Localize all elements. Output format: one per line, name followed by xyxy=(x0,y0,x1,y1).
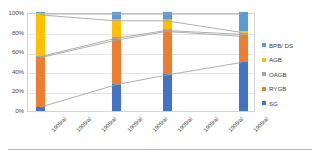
x-tick-label: 1905ral xyxy=(177,116,194,133)
legend-item[interactable]: BPB/ DS xyxy=(262,40,293,50)
legend-label: OAGB xyxy=(269,71,287,78)
y-tick-label: 100% xyxy=(9,9,24,17)
x-tick-label: 1905ral xyxy=(126,116,143,133)
x-tick-label: 1905ral xyxy=(253,116,270,133)
trend-line xyxy=(41,31,242,57)
legend-swatch-icon xyxy=(262,58,266,62)
legend-item[interactable]: AGB xyxy=(262,55,282,65)
bar-segment[interactable] xyxy=(36,12,45,13)
y-tick-label: 0% xyxy=(15,107,24,115)
legend-swatch-icon xyxy=(262,72,266,76)
y-tick-label: 80% xyxy=(12,29,24,37)
plot-area xyxy=(27,13,255,112)
x-tick-label: 1905ral xyxy=(227,116,244,133)
y-tick-label: 20% xyxy=(12,87,24,95)
legend-label: RYGB xyxy=(269,85,286,92)
legend-swatch-icon xyxy=(262,101,266,105)
legend-swatch-icon xyxy=(262,43,266,47)
x-tick-label: 1905ral xyxy=(151,116,168,133)
legend-label: AGB xyxy=(269,56,282,63)
legend-item[interactable]: OAGB xyxy=(262,69,287,79)
legend-swatch-icon xyxy=(262,87,266,91)
legend-label: SG xyxy=(269,100,278,107)
x-tick-label: 1905ral xyxy=(202,116,219,133)
x-tick-label: 1905ral xyxy=(101,116,118,133)
bottom-rule-divider xyxy=(8,149,312,150)
y-tick-label: 40% xyxy=(12,68,24,76)
x-tick-label: 1905ral xyxy=(75,116,92,133)
legend-item[interactable]: SG xyxy=(262,98,278,108)
x-axis: 1905ral1905ral1905ral1905ral1905ral1905r… xyxy=(27,112,255,150)
y-tick-label: 60% xyxy=(12,48,24,56)
y-axis: 100% 80% 60% 40% 20% 0% xyxy=(0,9,26,116)
legend-item[interactable]: RYGB xyxy=(262,84,286,94)
stacked-bar-chart: 100% 80% 60% 40% 20% 0% 1905ral1905ral19… xyxy=(0,0,319,155)
trend-line xyxy=(41,63,242,108)
trend-line xyxy=(41,15,242,32)
chart-legend: BPB/ DSAGBOAGBRYGBSG xyxy=(262,40,317,114)
legend-label: BPB/ DS xyxy=(269,42,293,49)
line-overlay xyxy=(28,14,254,111)
x-tick-label: 1905ral xyxy=(50,116,67,133)
